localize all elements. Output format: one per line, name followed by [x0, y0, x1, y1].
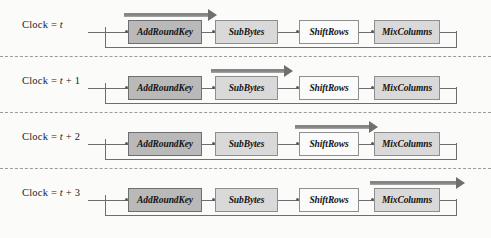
stage-sub-bytes[interactable]: SubBytes — [215, 188, 278, 212]
stage-mix-columns[interactable]: MixColumns — [374, 20, 440, 44]
stage-sub-bytes[interactable]: SubBytes — [215, 76, 278, 100]
feedback-wire-right — [440, 144, 457, 145]
feedback-wire-right — [440, 88, 457, 89]
active-stage-arrow-head-icon — [208, 9, 217, 21]
clock-label-suffix: + 2 — [63, 131, 80, 142]
stage-mix-columns[interactable]: MixColumns — [374, 188, 440, 212]
feedback-wire-right — [440, 32, 457, 33]
clock-label-prefix: Clock = — [22, 131, 60, 142]
feedback-wire-left-vertical — [105, 27, 106, 48]
active-stage-arrow-head-icon — [284, 65, 293, 77]
clock-label-prefix: Clock = — [22, 187, 60, 198]
stage-add-round-key[interactable]: AddRoundKey — [128, 20, 202, 44]
stage-add-round-key[interactable]: AddRoundKey — [128, 132, 202, 156]
feedback-wire-right-vertical — [456, 143, 457, 160]
feedback-wire-bottom — [105, 47, 457, 48]
stage-shift-rows[interactable]: ShiftRows — [299, 188, 359, 212]
stage-add-round-key[interactable]: AddRoundKey — [128, 188, 202, 212]
stage-mix-columns[interactable]: MixColumns — [374, 132, 440, 156]
clock-label: Clock = t + 1 — [22, 75, 80, 86]
clock-label-prefix: Clock = — [22, 75, 60, 86]
clock-label: Clock = t — [22, 19, 63, 30]
feedback-wire-right-vertical — [456, 199, 457, 216]
active-stage-arrow-bar — [370, 181, 458, 185]
stage-mix-columns[interactable]: MixColumns — [374, 76, 440, 100]
feedback-wire-bottom — [105, 159, 457, 160]
feedback-wire-left-vertical — [105, 139, 106, 160]
input-wire — [88, 88, 128, 89]
active-stage-arrow-head-icon — [456, 177, 465, 189]
clock-label: Clock = t + 3 — [22, 187, 80, 198]
active-stage-arrow-head-icon — [369, 121, 378, 133]
active-stage-arrow-bar — [211, 69, 286, 73]
stage-shift-rows[interactable]: ShiftRows — [299, 76, 359, 100]
input-wire — [88, 144, 128, 145]
feedback-wire-right — [440, 200, 457, 201]
aes-pipeline-diagram: Clock = t AddRoundKey SubBytes ShiftRows… — [0, 0, 491, 238]
clock-label: Clock = t + 2 — [22, 131, 80, 142]
input-wire — [88, 200, 128, 201]
feedback-wire-bottom — [105, 103, 457, 104]
stage-sub-bytes[interactable]: SubBytes — [215, 20, 278, 44]
clock-label-suffix: + 1 — [63, 75, 80, 86]
clock-row: Clock = t + 3 AddRoundKey SubBytes Shift… — [0, 168, 491, 223]
feedback-wire-right-vertical — [456, 87, 457, 104]
stage-add-round-key[interactable]: AddRoundKey — [128, 76, 202, 100]
active-stage-arrow-bar — [124, 13, 210, 17]
clock-label-prefix: Clock = — [22, 19, 60, 30]
feedback-wire-left-vertical — [105, 83, 106, 104]
input-wire — [88, 32, 128, 33]
active-stage-arrow-bar — [295, 125, 371, 129]
feedback-wire-left-vertical — [105, 195, 106, 216]
clock-row: Clock = t + 1 AddRoundKey SubBytes Shift… — [0, 56, 491, 111]
stage-shift-rows[interactable]: ShiftRows — [299, 132, 359, 156]
feedback-wire-bottom — [105, 215, 457, 216]
clock-label-variable: t — [60, 19, 63, 30]
clock-row: Clock = t AddRoundKey SubBytes ShiftRows… — [0, 0, 491, 55]
stage-shift-rows[interactable]: ShiftRows — [299, 20, 359, 44]
clock-label-suffix: + 3 — [63, 187, 80, 198]
stage-sub-bytes[interactable]: SubBytes — [215, 132, 278, 156]
feedback-wire-right-vertical — [456, 31, 457, 48]
clock-row: Clock = t + 2 AddRoundKey SubBytes Shift… — [0, 112, 491, 167]
